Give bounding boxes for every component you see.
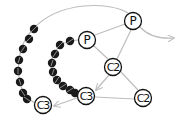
node-c3-mid[interactable]: C3 (78, 88, 95, 105)
node-label: C2 (137, 92, 150, 105)
edge-p-right-offscreen (140, 27, 174, 38)
inner-bead-chain (48, 37, 79, 97)
edge-p-left-to-c2-mid (94, 46, 108, 59)
node-label: C2 (107, 61, 120, 74)
node-c2-mid[interactable]: C2 (105, 59, 122, 76)
edge-c2-mid-to-c2-right (121, 72, 138, 90)
outer-bead-chain (14, 25, 38, 103)
node-label: P (83, 33, 90, 47)
edge-p-right-to-c2-mid (117, 30, 131, 59)
polymer-diagram: P P C2 C3 C2 C3 (0, 0, 176, 125)
node-p-right[interactable]: P (125, 13, 142, 30)
edges (18, 6, 174, 106)
node-c3-left[interactable]: C3 (35, 97, 52, 114)
edge-c2-right-to-c3-mid (95, 97, 134, 99)
node-label: C3 (80, 90, 94, 103)
edge-c3-mid-to-c3-left (54, 98, 77, 106)
edge-c2-mid-to-c3-mid (96, 75, 109, 90)
edge-outer-chain-to-p-right (33, 6, 128, 29)
node-c2-right[interactable]: C2 (135, 90, 152, 107)
node-label: P (129, 14, 136, 28)
edge-p-left-to-p-right (95, 24, 125, 35)
node-label: C3 (37, 99, 51, 112)
node-p-left[interactable]: P (79, 32, 96, 49)
